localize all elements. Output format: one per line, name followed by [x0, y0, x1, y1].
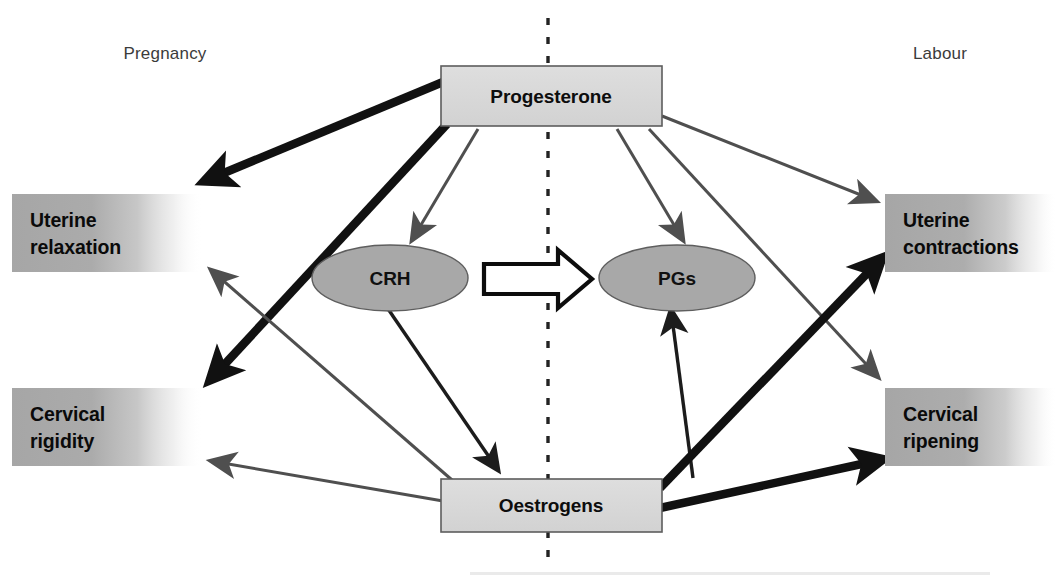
outcome-uterine-relaxation: Uterine relaxation — [12, 194, 202, 272]
outcome-panel-bg — [885, 388, 1057, 466]
node-crh: CRH — [312, 245, 468, 311]
outcome-panel-bg — [885, 194, 1057, 272]
scan-artifact — [470, 572, 990, 575]
outcome-cervical-rigidity: Cervical rigidity — [12, 388, 202, 466]
phase-label-labour: Labour — [913, 44, 967, 63]
outcome-panel-bg — [12, 388, 202, 466]
outcome-label-line2: ripening — [903, 430, 979, 452]
node-progesterone: Progesterone — [441, 66, 662, 126]
node-oestrogens: Oestrogens — [441, 479, 662, 532]
diagram-canvas: Pregnancy Labour Uterine — [0, 0, 1057, 582]
oestrogens-label: Oestrogens — [499, 495, 604, 516]
progesterone-label: Progesterone — [490, 86, 611, 107]
pgs-label: PGs — [658, 268, 696, 289]
diagram-svg: Pregnancy Labour Uterine — [0, 0, 1057, 582]
outcome-label-line2: rigidity — [30, 430, 94, 452]
phase-label-pregnancy: Pregnancy — [123, 44, 206, 63]
outcome-label-line2: contractions — [903, 236, 1019, 258]
outcome-label-line1: Cervical — [903, 403, 978, 425]
outcome-label-line2: relaxation — [30, 236, 121, 258]
node-pgs: PGs — [599, 245, 755, 311]
outcome-cervical-ripening: Cervical ripening — [885, 388, 1057, 466]
outcome-panel-bg — [12, 194, 202, 272]
outcome-label-line1: Cervical — [30, 403, 105, 425]
outcome-label-line1: Uterine — [903, 209, 970, 231]
outcome-uterine-contractions: Uterine contractions — [885, 194, 1057, 272]
crh-label: CRH — [369, 268, 410, 289]
outcome-label-line1: Uterine — [30, 209, 97, 231]
